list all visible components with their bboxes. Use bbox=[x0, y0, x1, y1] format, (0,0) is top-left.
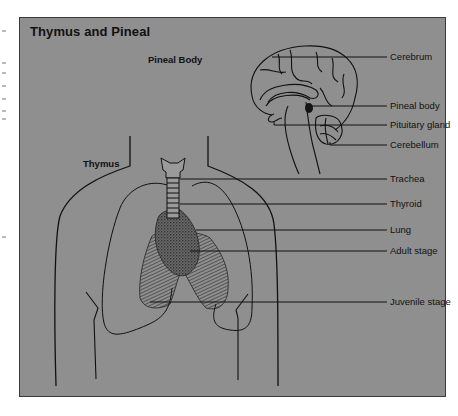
trachea-icon bbox=[161, 158, 185, 218]
anatomy-illustration bbox=[20, 18, 447, 398]
brain-leader-lines bbox=[272, 57, 387, 145]
label-thyroid: Thyroid bbox=[390, 198, 422, 209]
label-pineal-body: Pineal body bbox=[390, 100, 440, 111]
label-lung: Lung bbox=[390, 224, 411, 235]
label-pituitary-gland: Pituitary gland bbox=[390, 119, 450, 130]
label-cerebellum: Cerebellum bbox=[390, 139, 439, 150]
label-cerebrum: Cerebrum bbox=[390, 51, 432, 62]
label-trachea: Trachea bbox=[390, 173, 425, 184]
brain-sagittal-icon bbox=[251, 46, 357, 174]
pineal-body-marker bbox=[305, 103, 313, 113]
page-margin-marks bbox=[0, 0, 12, 416]
label-juvenile-stage: Juvenile stage bbox=[390, 296, 451, 307]
thymus-heading: Thymus bbox=[83, 158, 119, 169]
figure-panel: Thymus and Pineal bbox=[19, 17, 446, 397]
pineal-heading: Pineal Body bbox=[148, 54, 202, 65]
label-adult-stage: Adult stage bbox=[390, 245, 438, 256]
